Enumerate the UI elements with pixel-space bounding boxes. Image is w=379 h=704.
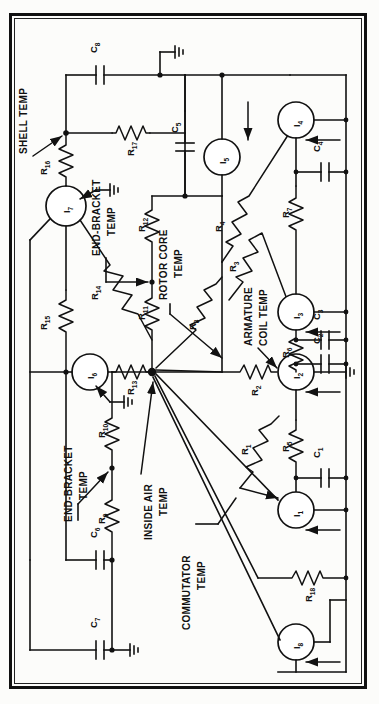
label-R15: R15: [38, 315, 51, 330]
junction-dot-C4: [294, 170, 299, 175]
current-source-I5: [204, 139, 240, 175]
resistor-R18: [258, 571, 346, 585]
fan-line-2: [155, 376, 258, 578]
current-source-I4: [278, 102, 314, 138]
resistor-R12: [145, 196, 159, 282]
fan-line-3: [153, 377, 280, 640]
junction-dot-C8: [157, 72, 162, 77]
label-R17: R17: [125, 141, 138, 156]
capacitor-C1: [296, 469, 346, 487]
resistor-R7: [289, 186, 303, 294]
label-C8: C8: [88, 42, 101, 53]
resistor-R11: [145, 282, 159, 372]
junction-dot-C3: [294, 338, 299, 343]
label-rotor-core: ROTOR CORE: [158, 229, 169, 300]
junction-dot-rail-C3: [344, 338, 349, 343]
resistor-R17: [112, 126, 150, 140]
resistor-R16: [59, 133, 73, 186]
current-source-I8: [278, 624, 314, 660]
label-R1: R1: [239, 444, 252, 455]
label-C1: C1: [311, 447, 324, 458]
current-source-I1: [278, 492, 314, 528]
junction-dot-I5-top: [219, 72, 224, 77]
label-R4: R4: [213, 221, 226, 232]
label-armature-coil-temp: COIL TEMP: [258, 289, 269, 346]
label-R11: R11: [136, 306, 149, 320]
junction-dot-C2: [294, 362, 299, 367]
label-commutator-temp: TEMP: [196, 561, 207, 590]
label-end-bracket-top-temp: TEMP: [106, 207, 117, 236]
capacitor-C4: [296, 163, 346, 181]
label-C5: C5: [169, 122, 182, 133]
wire-I7-left: [30, 219, 50, 240]
label-armature: ARMATURE: [243, 287, 254, 346]
label-C4: C4: [311, 141, 324, 152]
label-rotor-core-temp: TEMP: [173, 249, 184, 278]
resistor-R5: [289, 420, 303, 478]
capacitor-C8: [66, 66, 160, 84]
label-R2: R2: [249, 385, 262, 396]
label-R13: R13: [125, 380, 138, 395]
current-source-I6: [72, 354, 108, 390]
label-end-bracket-bottom-temp: TEMP: [78, 471, 89, 500]
resistor-R10: [105, 372, 119, 468]
label-R3: R3: [227, 261, 240, 272]
junction-dot-I5-bottom: [182, 193, 187, 198]
label-R18: R18: [303, 587, 316, 602]
label-C6: C6: [88, 527, 101, 538]
ground-symbol-I2: [346, 366, 354, 378]
label-R9: R9: [96, 513, 109, 524]
label-R8: R8: [187, 319, 200, 330]
junction-dot-rail-C1: [344, 476, 349, 481]
junction-dot-rail-I1: [344, 508, 349, 513]
current-source-I3: [278, 294, 314, 330]
label-R10: R10: [96, 423, 109, 438]
ground-symbol-I6: [110, 396, 132, 408]
capacitor-C7: [30, 641, 112, 659]
label-C7: C7: [88, 617, 101, 628]
label-end-bracket-bottom: END-BRACKET: [63, 445, 74, 522]
label-R14: R14: [89, 285, 102, 300]
label-R12: R12: [136, 217, 149, 232]
junction-dot-rail-I3: [344, 310, 349, 315]
junction-dot-rail-C2: [344, 362, 349, 367]
label-inside-air-temp: TEMP: [158, 487, 169, 516]
arrow-I6: [96, 386, 110, 402]
commutator-pointer: [218, 498, 236, 524]
pointer-shell-temp: [33, 136, 62, 156]
label-end-bracket-top: END-BRACKET: [91, 179, 102, 256]
pointer-inside-air: [141, 382, 153, 474]
ground-symbol-bottom: [130, 644, 138, 656]
junction-dot-rail-C4: [344, 170, 349, 175]
junction-dot-rail-R18: [344, 576, 349, 581]
label-C2: C2: [311, 333, 324, 344]
label-shell-temp: SHELL TEMP: [18, 88, 29, 154]
resistor-R15: [59, 290, 73, 372]
label-inside-air: INSIDE AIR: [143, 484, 154, 540]
figure-canvas: C8 R17 SHELL TEMP R16 I7: [0, 0, 379, 704]
circuit-schematic: C8 R17 SHELL TEMP R16 I7: [0, 0, 379, 704]
ground-symbol-top: [160, 46, 183, 58]
label-commutator: COMMUTATOR: [181, 555, 192, 630]
label-R16: R16: [38, 160, 51, 175]
capacitor-C6: [66, 551, 112, 569]
junction-dot-rail-I4: [344, 118, 349, 123]
